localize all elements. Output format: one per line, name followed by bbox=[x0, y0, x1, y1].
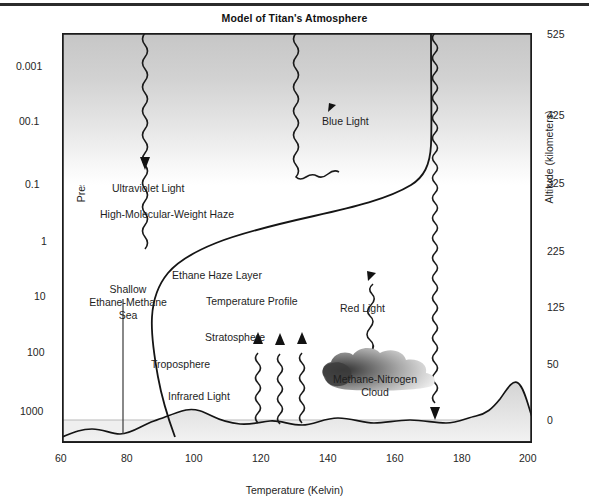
right-tick-6: 0 bbox=[547, 414, 553, 426]
page-title: Model of Titan's Atmosphere bbox=[0, 12, 589, 24]
annotation-shallow-sea-line3: Sea bbox=[83, 309, 173, 321]
annotation-temperature-profile: Temperature Profile bbox=[206, 295, 298, 307]
red-light-arrowhead bbox=[367, 271, 376, 281]
annotation-shallow-sea-line2: Ethane-Methane bbox=[83, 296, 173, 308]
right-tick-4: 125 bbox=[547, 301, 565, 313]
top-rule bbox=[0, 3, 589, 6]
terrain-surface bbox=[62, 382, 532, 442]
y2-axis-label: Altitude (kilometers) bbox=[543, 67, 557, 247]
x-tick-7: 200 bbox=[519, 452, 537, 464]
left-tick-6: 1000 bbox=[20, 405, 43, 417]
annotation-high-molecular-weight-haze: High-Molecular-Weight Haze bbox=[100, 208, 234, 220]
annotation-troposphere: Troposphere bbox=[151, 358, 210, 370]
left-tick-2: 0.1 bbox=[25, 178, 40, 190]
x-tick-1: 80 bbox=[121, 452, 133, 464]
x-tick-5: 160 bbox=[386, 452, 404, 464]
annotation-ethane-haze-layer: Ethane Haze Layer bbox=[172, 269, 262, 281]
annotation-stratosphere: Stratosphere bbox=[205, 331, 265, 343]
long-wave-arrowhead bbox=[430, 407, 440, 420]
x-tick-2: 100 bbox=[185, 452, 203, 464]
left-tick-5: 100 bbox=[27, 346, 45, 358]
x-tick-4: 140 bbox=[319, 452, 337, 464]
x-tick-0: 60 bbox=[55, 452, 67, 464]
annotation-shallow-sea-line1: Shallow bbox=[83, 283, 173, 295]
left-tick-4: 10 bbox=[34, 290, 46, 302]
infrared-light-waves bbox=[253, 332, 307, 424]
left-tick-0: 0.001 bbox=[16, 60, 42, 72]
annotation-ultraviolet-light: Ultraviolet Light bbox=[112, 182, 184, 194]
annotation-infrared-light: Infrared Light bbox=[168, 390, 230, 402]
annotation-red-light: Red Light bbox=[340, 302, 385, 314]
annotation-blue-light: Blue Light bbox=[322, 115, 369, 127]
right-tick-0: 525 bbox=[547, 28, 565, 40]
x-tick-3: 120 bbox=[252, 452, 270, 464]
x-tick-6: 180 bbox=[453, 452, 471, 464]
left-tick-3: 1 bbox=[41, 235, 47, 247]
right-tick-5: 50 bbox=[547, 358, 559, 370]
x-axis-label: Temperature (Kelvin) bbox=[0, 484, 589, 496]
plot-area bbox=[62, 33, 532, 443]
annotation-methane-nitrogen-cloud-line2: Cloud bbox=[317, 386, 433, 398]
annotation-methane-nitrogen-cloud-line1: Methane-Nitrogen bbox=[317, 373, 433, 385]
left-tick-1: 00.1 bbox=[19, 115, 39, 127]
